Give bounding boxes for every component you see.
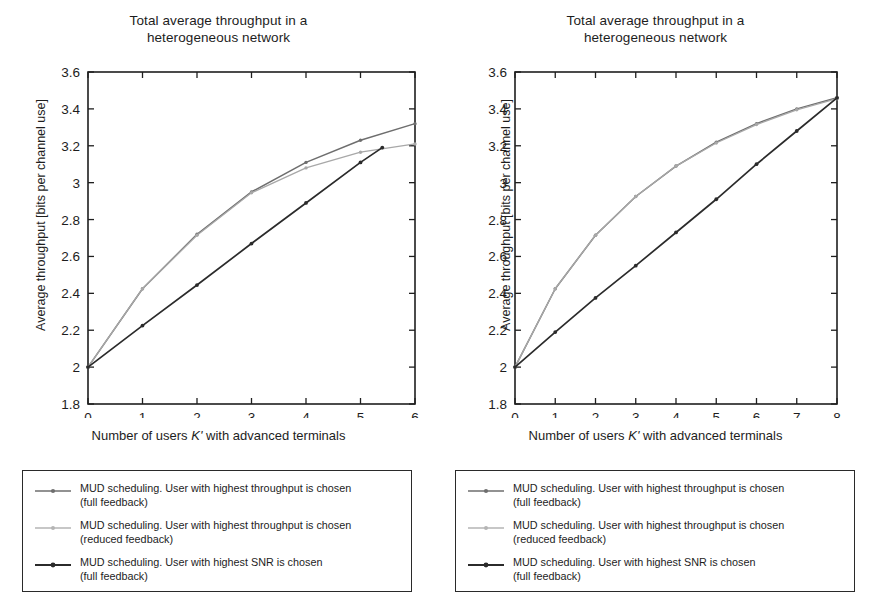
svg-text:0: 0 xyxy=(84,410,92,418)
legend-label-line-2: (full feedback) xyxy=(513,570,755,584)
legend-item-label: MUD scheduling. User with highest throug… xyxy=(80,482,351,509)
svg-text:1.8: 1.8 xyxy=(488,397,507,412)
legend-item-label: MUD scheduling. User with highest SNR is… xyxy=(513,556,755,583)
x-axis-label-suffix: with advanced terminals xyxy=(202,428,345,443)
x-axis-label-left: Number of users K' with advanced termina… xyxy=(0,428,437,443)
chart-title-line-1: Total average throughput in a xyxy=(0,12,437,29)
x-axis-label-right: Number of users K' with advanced termina… xyxy=(437,428,874,443)
svg-text:2: 2 xyxy=(193,410,201,418)
svg-text:6: 6 xyxy=(411,410,419,418)
legend-label-line-2: (reduced feedback) xyxy=(80,533,351,547)
legend-item[interactable]: MUD scheduling. User with highest throug… xyxy=(23,519,411,547)
svg-text:2.8: 2.8 xyxy=(61,213,80,228)
svg-text:3: 3 xyxy=(632,410,640,418)
chart-panel-left: Total average throughput in a heterogene… xyxy=(0,0,437,613)
legend-line-marker-icon xyxy=(466,556,506,584)
legend-item-label: MUD scheduling. User with highest SNR is… xyxy=(80,556,322,583)
svg-text:2: 2 xyxy=(592,410,600,418)
svg-text:1: 1 xyxy=(139,410,147,418)
legend-label-line-2: (full feedback) xyxy=(513,496,784,510)
legend-item-label: MUD scheduling. User with highest throug… xyxy=(513,482,784,509)
x-axis-label-suffix: with advanced terminals xyxy=(639,428,782,443)
svg-text:2.6: 2.6 xyxy=(61,249,80,264)
legend-line-marker-icon xyxy=(33,519,73,547)
svg-text:4: 4 xyxy=(672,410,680,418)
legend-label-line-2: (full feedback) xyxy=(80,496,351,510)
x-axis-label-prefix: Number of users xyxy=(92,428,192,443)
svg-text:0: 0 xyxy=(511,410,519,418)
svg-text:3.4: 3.4 xyxy=(61,102,80,117)
legend-item-label: MUD scheduling. User with highest throug… xyxy=(513,519,784,546)
svg-text:3: 3 xyxy=(72,176,80,191)
legend-box-right: MUD scheduling. User with highest throug… xyxy=(455,470,855,592)
legend-label-line-1: MUD scheduling. User with highest throug… xyxy=(513,519,784,533)
x-axis-label-symbol: K' xyxy=(191,428,202,443)
legend-label-line-2: (full feedback) xyxy=(80,570,322,584)
chart-title-line-2: heterogeneous network xyxy=(0,29,437,46)
legend-item[interactable]: MUD scheduling. User with highest SNR is… xyxy=(456,556,854,584)
svg-text:2.4: 2.4 xyxy=(488,286,507,301)
svg-text:5: 5 xyxy=(712,410,720,418)
svg-text:3.6: 3.6 xyxy=(61,65,80,80)
legend-label-line-1: MUD scheduling. User with highest throug… xyxy=(80,482,351,496)
svg-text:1.8: 1.8 xyxy=(61,397,80,412)
svg-text:2: 2 xyxy=(499,360,507,375)
legend-label-line-1: MUD scheduling. User with highest throug… xyxy=(80,519,351,533)
chart-title-left: Total average throughput in a heterogene… xyxy=(0,12,437,46)
legend-line-marker-icon xyxy=(33,556,73,584)
legend-label-line-2: (reduced feedback) xyxy=(513,533,784,547)
x-axis-label-symbol: K' xyxy=(628,428,639,443)
svg-text:2: 2 xyxy=(72,360,80,375)
svg-text:2.8: 2.8 xyxy=(488,213,507,228)
legend-item[interactable]: MUD scheduling. User with highest throug… xyxy=(23,482,411,510)
svg-text:1: 1 xyxy=(551,410,559,418)
svg-text:4: 4 xyxy=(302,410,310,418)
legend-item[interactable]: MUD scheduling. User with highest throug… xyxy=(456,519,854,547)
plot-svg-right: 0123456781.822.22.42.62.833.23.43.6 xyxy=(437,58,874,418)
svg-text:8: 8 xyxy=(833,410,841,418)
svg-text:2.4: 2.4 xyxy=(61,286,80,301)
svg-text:3.2: 3.2 xyxy=(488,139,507,154)
chart-title-line-1: Total average throughput in a xyxy=(437,12,874,29)
svg-text:2.2: 2.2 xyxy=(488,323,507,338)
legend-line-marker-icon xyxy=(466,482,506,510)
plot-svg-left: 01234561.822.22.42.62.833.23.43.6 xyxy=(0,58,437,418)
plot-area-right: Average throughput [bits per channel use… xyxy=(437,58,874,458)
svg-text:3.4: 3.4 xyxy=(488,102,507,117)
svg-text:7: 7 xyxy=(793,410,801,418)
legend-label-line-1: MUD scheduling. User with highest SNR is… xyxy=(80,556,322,570)
legend-line-marker-icon xyxy=(466,519,506,547)
legend-item[interactable]: MUD scheduling. User with highest throug… xyxy=(456,482,854,510)
chart-panel-right: Total average throughput in a heterogene… xyxy=(437,0,874,613)
svg-text:3: 3 xyxy=(248,410,256,418)
legend-label-line-1: MUD scheduling. User with highest throug… xyxy=(513,482,784,496)
svg-text:3: 3 xyxy=(499,176,507,191)
svg-text:2.6: 2.6 xyxy=(488,249,507,264)
legend-line-marker-icon xyxy=(33,482,73,510)
svg-text:3.6: 3.6 xyxy=(488,65,507,80)
svg-text:5: 5 xyxy=(357,410,365,418)
x-axis-label-prefix: Number of users xyxy=(529,428,629,443)
legend-label-line-1: MUD scheduling. User with highest SNR is… xyxy=(513,556,755,570)
legend-item-label: MUD scheduling. User with highest throug… xyxy=(80,519,351,546)
svg-text:3.2: 3.2 xyxy=(61,139,80,154)
chart-title-line-2: heterogeneous network xyxy=(437,29,874,46)
chart-title-right: Total average throughput in a heterogene… xyxy=(437,12,874,46)
figure-root: Total average throughput in a heterogene… xyxy=(0,0,874,613)
plot-area-left: Average throughput [bits per channel use… xyxy=(0,58,437,458)
legend-item[interactable]: MUD scheduling. User with highest SNR is… xyxy=(23,556,411,584)
svg-text:6: 6 xyxy=(753,410,761,418)
svg-text:2.2: 2.2 xyxy=(61,323,80,338)
legend-box-left: MUD scheduling. User with highest throug… xyxy=(22,470,412,592)
